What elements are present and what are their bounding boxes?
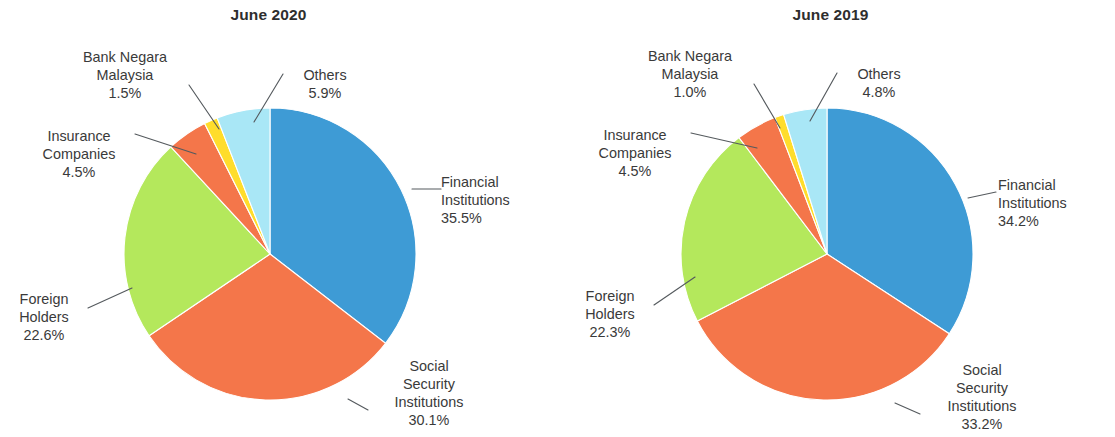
chart-panel-june-2019: June 2019 Financial Institutions 34.2% S… <box>558 0 1115 437</box>
pie-label-foreign-holders: Foreign Holders 22.6% <box>2 290 86 344</box>
pie-label-others: Others 4.8% <box>843 65 915 101</box>
pie-label-bank-negara-malaysia: Bank Negara Malaysia 1.5% <box>63 48 187 102</box>
leader-line-social <box>348 399 368 410</box>
pie-label-insurance-companies: Insurance Companies 4.5% <box>24 127 134 181</box>
leader-line-foreign <box>88 288 132 308</box>
leader-line-social <box>895 403 920 414</box>
pie-label-bank-negara-malaysia: Bank Negara Malaysia 1.0% <box>628 47 752 101</box>
pie-label-others: Others 5.9% <box>289 66 361 102</box>
pie-label-insurance-companies: Insurance Companies 4.5% <box>580 126 690 180</box>
pie-label-financial-institutions: Financial Institutions 35.5% <box>441 173 510 227</box>
leader-line-bnm <box>189 85 219 129</box>
pie-chart-figure: June 2020 Financial Institutions 35.5% S… <box>0 0 1115 437</box>
pie-label-social-security-institutions: Social Security Institutions 30.1% <box>367 357 491 430</box>
leader-line-financial <box>968 192 996 198</box>
pie-slices-june-2019 <box>681 108 973 400</box>
pie-label-financial-institutions: Financial Institutions 34.2% <box>998 176 1067 230</box>
chart-panel-june-2020: June 2020 Financial Institutions 35.5% S… <box>0 0 557 437</box>
pie-label-social-security-institutions: Social Security Institutions 33.2% <box>920 361 1044 434</box>
pie-label-foreign-holders: Foreign Holders 22.3% <box>568 287 652 341</box>
